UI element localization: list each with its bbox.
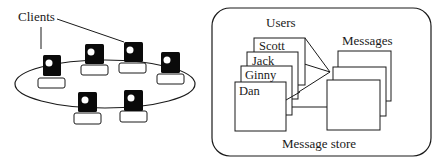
client-computer: [157, 52, 184, 84]
svg-text:Dan: Dan: [239, 84, 261, 98]
client-computer: [38, 55, 65, 88]
client-computer: [74, 92, 101, 124]
message-cards: [327, 51, 391, 130]
svg-text:Ginny: Ginny: [245, 68, 277, 82]
client-computer: [120, 90, 147, 122]
clients-label: Clients: [18, 9, 55, 24]
client-server-diagram: Clients Users: [0, 0, 437, 164]
message-store-label: Message store: [282, 136, 356, 151]
clients-leader-line: [57, 19, 124, 42]
client-computer: [81, 44, 108, 75]
svg-text:Scott: Scott: [259, 39, 285, 53]
users-label: Users: [266, 15, 296, 30]
user-card-dan: Dan: [235, 82, 286, 131]
messages-label: Messages: [342, 33, 393, 48]
client-computer: [119, 42, 146, 73]
